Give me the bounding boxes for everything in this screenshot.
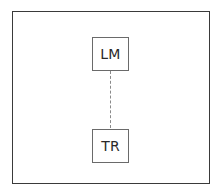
node-tr: TR [92,129,129,163]
node-lm-label: LM [100,46,120,62]
node-tr-label: TR [101,138,120,154]
node-lm: LM [92,37,129,71]
edge-lm-tr-dashed [110,71,111,128]
